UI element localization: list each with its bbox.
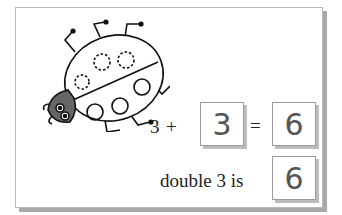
equals-sign: = (250, 116, 261, 135)
answer-box-double[interactable]: 6 (272, 156, 316, 200)
addend-text: 3 (150, 117, 160, 136)
plus-sign: + (166, 117, 177, 136)
ladybird-icon (20, 12, 170, 132)
answer-box-addend[interactable]: 3 (200, 102, 244, 146)
answer-box-sum[interactable]: 6 (272, 102, 316, 146)
double-label: double 3 is (160, 171, 243, 190)
